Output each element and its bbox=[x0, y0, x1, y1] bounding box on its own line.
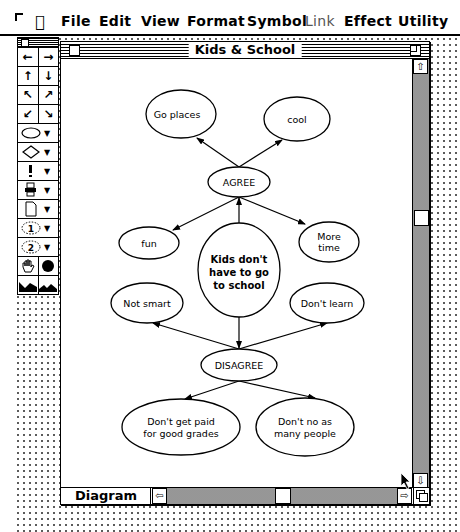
label-go-places: Go places bbox=[154, 109, 201, 120]
label-more-time-1: More bbox=[317, 231, 341, 242]
label-cool: cool bbox=[287, 114, 307, 125]
label-center-1: Kids don't bbox=[211, 254, 268, 265]
arrow-right-icon: ⇨ bbox=[400, 491, 408, 501]
arrow-up-icon: ⇧ bbox=[416, 62, 424, 72]
concept-map: Go places cool AGREE fun More time Not s… bbox=[61, 59, 412, 488]
landscape-filled-icon bbox=[19, 278, 37, 292]
arrow-down-left-icon: ↙ bbox=[23, 107, 33, 121]
hand-icon bbox=[20, 258, 36, 274]
diamond-icon bbox=[21, 145, 41, 159]
horizontal-scroll-thumb[interactable] bbox=[275, 488, 291, 504]
label-center-3: to school bbox=[213, 280, 264, 291]
menu-edit[interactable]: Edit bbox=[99, 13, 131, 29]
view-label[interactable]: Diagram bbox=[61, 488, 151, 504]
arrow-up-right-tool[interactable]: ↗ bbox=[38, 86, 59, 104]
label-dont-get-paid-2: for good grades bbox=[143, 428, 218, 439]
hand-tool[interactable] bbox=[18, 257, 38, 275]
menu-bar:  File Edit View Format Symbol Link Effe… bbox=[0, 0, 460, 36]
document-window: Kids & School bbox=[60, 41, 430, 505]
window-title-bar[interactable]: Kids & School bbox=[61, 42, 429, 59]
menu-link[interactable]: Link bbox=[305, 13, 335, 29]
landscape-filled-tool[interactable] bbox=[18, 276, 38, 294]
exclamation-tool[interactable]: ▼ bbox=[18, 162, 58, 180]
menu-utility[interactable]: Utility bbox=[398, 13, 448, 29]
stamp-tool[interactable]: ▼ bbox=[18, 181, 58, 199]
dropdown-triangle-icon: ▼ bbox=[44, 129, 50, 138]
mouse-pointer-icon bbox=[400, 472, 412, 490]
menu-file[interactable]: File bbox=[61, 13, 91, 29]
vertical-scroll-thumb[interactable] bbox=[414, 210, 429, 226]
menu-format[interactable]: Format bbox=[187, 13, 245, 29]
tool-palette: ← → ↑ ↓ ↖ ↗ ↙ ↘ ▼ ▼ ▼ ▼ bbox=[17, 37, 59, 295]
arrow-left-icon: ← bbox=[23, 50, 33, 64]
label-agree: AGREE bbox=[223, 177, 255, 188]
label-dont-get-paid-1: Don't get paid bbox=[147, 416, 215, 427]
apple-menu-icon[interactable]:  bbox=[35, 12, 45, 31]
landscape-outline-icon bbox=[39, 278, 57, 292]
fill-tool[interactable] bbox=[38, 257, 59, 275]
label-fun: fun bbox=[141, 238, 156, 249]
document-tool[interactable]: ▼ bbox=[18, 200, 58, 218]
arrow-left-icon: ⇦ bbox=[155, 491, 163, 501]
dropdown-triangle-icon: ▼ bbox=[44, 186, 50, 195]
ellipse-tool[interactable]: ▼ bbox=[18, 124, 58, 142]
node-dont-no-as bbox=[256, 398, 354, 456]
arrow-down-icon: ↓ bbox=[43, 69, 53, 83]
menu-symbol[interactable]: Symbol bbox=[247, 13, 307, 29]
node-dont-get-paid bbox=[122, 399, 240, 455]
arrow-down-tool[interactable]: ↓ bbox=[38, 67, 59, 85]
label-not-smart: Not smart bbox=[123, 298, 171, 309]
arrow-right-icon: → bbox=[43, 50, 53, 64]
diagram-canvas[interactable]: Go places cool AGREE fun More time Not s… bbox=[61, 59, 412, 488]
filled-circle-icon bbox=[41, 259, 55, 273]
numbered-badge-1-icon: 1 bbox=[21, 221, 41, 235]
exclamation-icon bbox=[21, 164, 41, 178]
numbered-badge-2-icon: 2 bbox=[21, 240, 41, 254]
arrow-up-tool[interactable]: ↑ bbox=[18, 67, 38, 85]
size-box[interactable] bbox=[413, 488, 429, 504]
numbered-2-tool[interactable]: 2 ▼ bbox=[18, 238, 58, 256]
label-center-2: have to go bbox=[209, 267, 269, 278]
scroll-left-button[interactable]: ⇦ bbox=[152, 488, 167, 504]
label-disagree: DISAGREE bbox=[215, 360, 264, 371]
scroll-right-button[interactable]: ⇨ bbox=[397, 488, 412, 504]
arrow-down-right-tool[interactable]: ↘ bbox=[38, 105, 59, 123]
diamond-tool[interactable]: ▼ bbox=[18, 143, 58, 161]
numbered-1-tool[interactable]: 1 ▼ bbox=[18, 219, 58, 237]
arrow-down-right-icon: ↘ bbox=[43, 107, 53, 121]
ellipse-icon bbox=[21, 127, 41, 139]
dropdown-triangle-icon: ▼ bbox=[44, 224, 50, 233]
svg-text:1: 1 bbox=[28, 224, 34, 234]
vertical-scrollbar[interactable]: ⇧ ⇩ bbox=[412, 59, 429, 488]
palette-title-bar[interactable] bbox=[18, 38, 58, 48]
zoom-box[interactable] bbox=[410, 45, 421, 56]
bottom-bar: Diagram ⇦ ⇨ bbox=[61, 487, 429, 504]
label-dont-learn: Don't learn bbox=[301, 298, 354, 309]
arrow-up-right-icon: ↗ bbox=[43, 88, 53, 102]
menu-effect[interactable]: Effect bbox=[344, 13, 392, 29]
arrow-right-tool[interactable]: → bbox=[38, 48, 59, 66]
svg-text:2: 2 bbox=[28, 243, 34, 253]
close-box[interactable] bbox=[69, 45, 80, 56]
arrow-down-icon: ⇩ bbox=[416, 476, 424, 486]
label-dont-no-as-1: Don't no as bbox=[278, 416, 332, 427]
scroll-down-button[interactable]: ⇩ bbox=[413, 473, 428, 488]
dropdown-triangle-icon: ▼ bbox=[44, 148, 50, 157]
document-icon bbox=[21, 201, 41, 217]
stamp-icon bbox=[21, 182, 41, 198]
landscape-outline-tool[interactable] bbox=[38, 276, 59, 294]
screen-corner bbox=[15, 13, 23, 21]
arrow-up-left-tool[interactable]: ↖ bbox=[18, 86, 38, 104]
palette-close-box[interactable] bbox=[21, 39, 29, 47]
horizontal-scrollbar[interactable]: ⇦ ⇨ bbox=[152, 488, 412, 504]
dropdown-triangle-icon: ▼ bbox=[44, 243, 50, 252]
arrow-up-icon: ↑ bbox=[23, 69, 33, 83]
menu-view[interactable]: View bbox=[141, 13, 180, 29]
label-dont-no-as-2: many people bbox=[274, 428, 336, 439]
arrow-up-left-icon: ↖ bbox=[23, 88, 33, 102]
label-more-time-2: time bbox=[318, 242, 340, 253]
dropdown-triangle-icon: ▼ bbox=[44, 167, 50, 176]
arrow-down-left-tool[interactable]: ↙ bbox=[18, 105, 38, 123]
scroll-up-button[interactable]: ⇧ bbox=[413, 59, 428, 74]
arrow-left-tool[interactable]: ← bbox=[18, 48, 38, 66]
